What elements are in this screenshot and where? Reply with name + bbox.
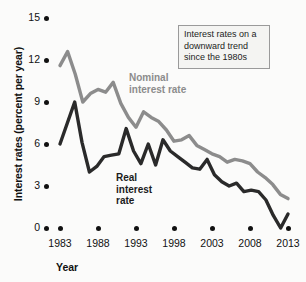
y-tick-dot-9 — [44, 100, 49, 105]
x-tick-dot-1993 — [134, 226, 139, 231]
y-tick-label-6: 6 — [14, 137, 40, 149]
x-tick-label-2008: 2008 — [230, 237, 270, 249]
series-label-real: Real interest rate — [116, 172, 152, 207]
x-tick-dot-2003 — [210, 226, 215, 231]
trend-annotation-box: Interest rates on a downward trend since… — [178, 25, 270, 69]
x-tick-label-1988: 1988 — [78, 237, 118, 249]
x-tick-label-2003: 2003 — [192, 237, 232, 249]
x-tick-dot-2013 — [286, 226, 291, 231]
series-label-real-line3: rate — [116, 195, 152, 207]
series-label-real-line2: interest — [116, 184, 152, 196]
x-tick-dot-1988 — [96, 226, 101, 231]
real-interest-rate-line — [60, 102, 288, 228]
series-label-nominal: Nominal interest rate — [129, 72, 186, 95]
trend-annotation-line2: downward trend — [184, 41, 265, 53]
trend-annotation-line1: Interest rates on a — [184, 29, 265, 41]
y-tick-dot-3 — [44, 184, 49, 189]
x-tick-label-1983: 1983 — [40, 237, 80, 249]
y-tick-label-0: 0 — [14, 221, 40, 233]
series-label-real-line1: Real — [116, 172, 152, 184]
y-tick-label-3: 3 — [14, 179, 40, 191]
x-tick-dot-1998 — [172, 226, 177, 231]
x-axis-title: Year — [56, 261, 78, 273]
y-tick-label-9: 9 — [14, 95, 40, 107]
x-tick-label-1998: 1998 — [154, 237, 194, 249]
y-tick-dot-0 — [44, 226, 49, 231]
y-tick-dot-15 — [44, 16, 49, 21]
y-tick-dot-12 — [44, 58, 49, 63]
x-tick-label-2013: 2013 — [268, 237, 306, 249]
y-tick-label-12: 12 — [14, 53, 40, 65]
interest-rates-chart: Interest rates (percent per year) Year 0… — [0, 0, 306, 282]
x-tick-dot-1983 — [58, 226, 63, 231]
x-tick-dot-2008 — [248, 226, 253, 231]
y-tick-label-15: 15 — [14, 11, 40, 23]
series-label-nominal-line1: Nominal — [129, 72, 186, 84]
series-label-nominal-line2: interest rate — [129, 84, 186, 96]
y-tick-dot-6 — [44, 142, 49, 147]
trend-annotation-line3: since the 1980s — [184, 52, 265, 64]
x-tick-label-1993: 1993 — [116, 237, 156, 249]
